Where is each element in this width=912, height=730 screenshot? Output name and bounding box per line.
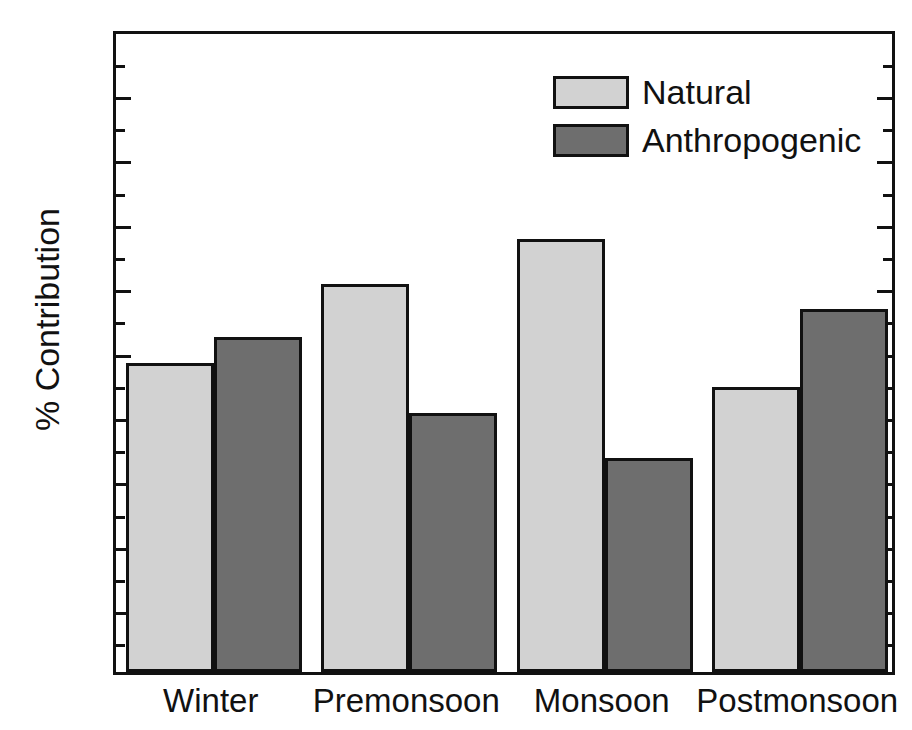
bar-winter-natural [126, 363, 214, 672]
axis-tick [116, 355, 131, 358]
bar-chart: % Contribution 0102030405060708090100 Wi… [0, 0, 912, 730]
legend-swatch-natural-icon [553, 76, 629, 109]
legend-swatch-anthropogenic-icon [553, 124, 629, 157]
legend: Natural Anthropogenic [553, 68, 861, 164]
bar-postmonsoon-natural [712, 387, 800, 672]
bar-premonsoon-natural [321, 284, 409, 672]
axis-tick [883, 129, 892, 132]
bar-monsoon-natural [517, 239, 605, 672]
axis-tick [116, 226, 131, 229]
axis-tick [883, 65, 892, 68]
axis-tick [116, 580, 125, 583]
axis-tick [116, 290, 131, 293]
axis-tick [116, 644, 125, 647]
axis-tick [883, 194, 892, 197]
bar-postmonsoon-anthropogenic [800, 309, 888, 672]
bar-monsoon-anthropogenic [605, 458, 693, 672]
axis-tick [116, 258, 125, 261]
y-axis-title: % Contribution [28, 110, 67, 530]
axis-tick [877, 226, 892, 229]
bar-premonsoon-anthropogenic [409, 413, 497, 672]
axis-tick [116, 322, 125, 325]
axis-tick [116, 97, 131, 100]
axis-tick [116, 129, 125, 132]
axis-tick [883, 258, 892, 261]
legend-entry-anthropogenic: Anthropogenic [553, 116, 861, 164]
axis-tick [116, 161, 131, 164]
axis-tick [877, 161, 892, 164]
axis-tick [116, 194, 125, 197]
axis-tick [116, 451, 125, 454]
x-axis-tick-label: Postmonsoon [647, 684, 912, 717]
legend-label-natural: Natural [642, 75, 752, 109]
axis-tick [116, 65, 125, 68]
bar-winter-anthropogenic [214, 337, 302, 672]
axis-tick [116, 516, 125, 519]
axis-tick [877, 290, 892, 293]
legend-entry-natural: Natural [553, 68, 861, 116]
axis-tick [116, 387, 125, 390]
axis-tick [877, 97, 892, 100]
legend-label-anthropogenic: Anthropogenic [642, 123, 861, 157]
